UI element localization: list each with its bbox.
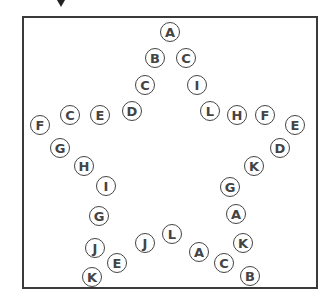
pointer-arrow-icon <box>57 0 65 7</box>
letter-circle: I <box>96 176 116 196</box>
letter-circle: L <box>162 224 182 244</box>
letter-circle: E <box>285 115 305 135</box>
letter-circle: F <box>30 115 50 135</box>
letter-circle: A <box>226 204 246 224</box>
letter-circle: J <box>135 233 155 253</box>
letter-circle: G <box>89 206 109 226</box>
letter-circle: H <box>227 105 247 125</box>
letter-circle: B <box>145 48 165 68</box>
letter-circle: L <box>200 101 220 121</box>
letter-circle: J <box>85 238 105 258</box>
letter-circle: B <box>240 266 260 286</box>
letter-circle: C <box>60 105 80 125</box>
letter-circle: G <box>50 138 70 158</box>
letter-circle: K <box>233 233 253 253</box>
letter-circle: H <box>74 156 94 176</box>
letter-circle: D <box>122 101 142 121</box>
letter-circle: I <box>187 75 207 95</box>
letter-circle: G <box>220 177 240 197</box>
letter-circle: A <box>189 242 209 262</box>
letter-circle: E <box>90 105 110 125</box>
letter-circle: F <box>255 105 275 125</box>
letter-circle: K <box>244 156 264 176</box>
letter-circle: C <box>135 75 155 95</box>
letter-circle: A <box>160 22 180 42</box>
letter-circle: C <box>176 48 196 68</box>
letter-circle: K <box>82 267 102 287</box>
letter-circle: E <box>107 253 127 273</box>
letter-circle: D <box>270 138 290 158</box>
letter-circle: C <box>214 253 234 273</box>
